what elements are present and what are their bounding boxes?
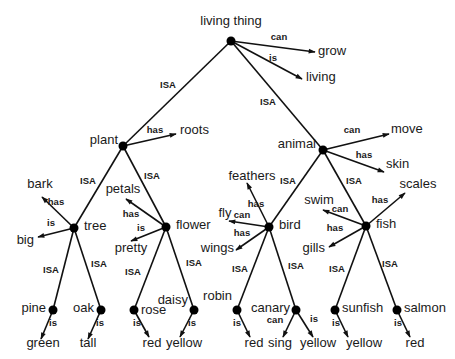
node-label-sunfish: sunfish	[342, 300, 383, 315]
node-dot	[393, 306, 402, 315]
isa-label: ISA	[80, 175, 96, 186]
relation-label: is	[233, 317, 241, 328]
semantic-network-diagram: ISAISAISAISAISAISAISAISAISAISAISAISAISAI…	[0, 0, 455, 359]
node-dot	[190, 306, 199, 315]
isa-label: ISA	[382, 258, 398, 269]
node-label-plant: plant	[90, 132, 119, 147]
relation-label: has	[327, 222, 343, 233]
property-value: roots	[180, 122, 209, 137]
property-value: swim	[304, 192, 334, 207]
property-value: scales	[400, 176, 437, 191]
node-label-tree: tree	[84, 218, 106, 233]
property-arrow	[231, 41, 315, 52]
isa-edges: ISAISAISAISAISAISAISAISAISAISAISAISAISAI…	[43, 41, 398, 310]
relation-label: has	[123, 208, 139, 219]
property-value: fly	[219, 205, 233, 220]
isa-label: ISA	[144, 170, 160, 181]
relation-label: is	[96, 317, 104, 328]
relation-label: has	[234, 227, 250, 238]
property-arrow	[323, 150, 384, 172]
node-dot	[233, 306, 242, 315]
node-dot	[130, 306, 139, 315]
node-label-robin: robin	[203, 288, 232, 303]
relation-label: can	[234, 209, 251, 220]
isa-label: ISA	[260, 96, 276, 107]
isa-edge	[269, 150, 323, 227]
node-dot	[162, 223, 171, 232]
relation-label: has	[48, 196, 64, 207]
node-label-living-thing: living thing	[200, 13, 261, 28]
property-arrow	[38, 228, 74, 237]
relation-label: can	[344, 124, 361, 135]
property-value: grow	[318, 43, 347, 58]
property-value: tall	[80, 335, 97, 350]
property-value: pretty	[115, 240, 148, 255]
property-value: big	[17, 232, 34, 247]
node-dot	[362, 222, 371, 231]
relation-label: can	[271, 31, 288, 42]
node-label-flower: flower	[176, 217, 211, 232]
relation-label: has	[147, 124, 163, 135]
property-arrow	[231, 41, 302, 79]
relation-label: is	[188, 317, 196, 328]
relation-label: can	[267, 314, 284, 325]
property-value: red	[143, 335, 162, 350]
isa-edge	[74, 228, 101, 310]
relation-label: is	[49, 317, 57, 328]
node-dot	[97, 306, 106, 315]
node-label-oak: oak	[73, 300, 94, 315]
isa-label: ISA	[91, 258, 107, 269]
node-label-bird: bird	[279, 217, 301, 232]
node-label-pine: pine	[21, 300, 46, 315]
node-dot	[319, 146, 328, 155]
relation-label: is	[269, 52, 277, 63]
property-value: yellow	[346, 335, 383, 350]
relation-label: is	[394, 317, 402, 328]
isa-label: ISA	[346, 175, 362, 186]
isa-label: ISA	[43, 264, 59, 275]
property-value: red	[406, 335, 425, 350]
relation-label: is	[310, 313, 318, 324]
property-value: bark	[27, 176, 53, 191]
isa-label: ISA	[125, 266, 141, 277]
node-dot	[70, 224, 79, 233]
property-value: sing	[268, 335, 292, 350]
property-value: petals	[106, 181, 141, 196]
node-dot	[227, 37, 236, 46]
node-dot	[49, 306, 58, 315]
relation-label: has	[248, 198, 264, 209]
property-arrow	[323, 134, 389, 150]
property-value: yellow	[300, 335, 337, 350]
property-value: yellow	[166, 335, 203, 350]
relation-label: is	[133, 317, 141, 328]
relation-label: is	[47, 217, 55, 228]
node-label-animal: animal	[278, 136, 316, 151]
relation-label: has	[356, 149, 372, 160]
isa-label: ISA	[160, 79, 176, 90]
isa-label: ISA	[280, 175, 296, 186]
property-value: skin	[386, 156, 409, 171]
relation-label: has	[372, 194, 388, 205]
node-label-canary: canary	[251, 300, 291, 315]
node-dot	[331, 306, 340, 315]
node-dot	[265, 223, 274, 232]
relation-label: can	[332, 203, 349, 214]
isa-label: ISA	[232, 263, 248, 274]
node-label-fish: fish	[376, 216, 396, 231]
property-value: green	[26, 335, 59, 350]
node-dot	[119, 142, 128, 151]
isa-label: ISA	[288, 260, 304, 271]
property-value: feathers	[229, 168, 276, 183]
isa-edge	[123, 41, 231, 146]
isa-edge	[231, 41, 323, 150]
isa-label: ISA	[186, 257, 202, 268]
property-value: move	[391, 121, 423, 136]
property-arrow	[123, 134, 176, 146]
property-value: gills	[303, 240, 326, 255]
relation-label: is	[332, 317, 340, 328]
property-value: living	[306, 69, 336, 84]
node-label-salmon: salmon	[404, 300, 446, 315]
isa-label: ISA	[329, 263, 345, 274]
isa-edge	[323, 150, 366, 226]
property-value: wings	[200, 240, 235, 255]
